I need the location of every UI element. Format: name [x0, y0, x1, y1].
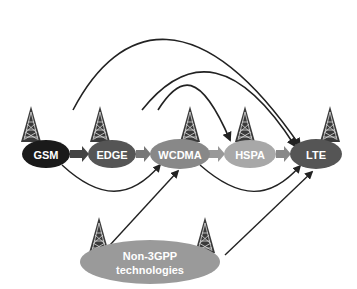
radio-tower-icon	[90, 106, 110, 142]
technology-evolution-diagram	[0, 0, 357, 289]
node-non3gpp	[80, 240, 220, 284]
radio-tower-icon	[21, 106, 41, 142]
label-gsm: GSM	[33, 149, 58, 161]
radio-tower-icon	[320, 106, 340, 142]
label-wcdma: WCDMA	[158, 149, 201, 161]
curve-wcdma-lte	[200, 165, 300, 191]
label-hspa: HSPA	[235, 149, 265, 161]
label-lte: LTE	[306, 149, 326, 161]
label-non3gpp-line1: Non-3GPP	[123, 250, 177, 262]
label-non3gpp-line2: technologies	[116, 264, 184, 276]
label-edge: EDGE	[96, 149, 127, 161]
line-non3gpp-lte	[225, 172, 312, 255]
line-non3gpp-wcdma	[110, 171, 178, 245]
radio-tower-icon	[180, 106, 200, 142]
radio-tower-icon	[235, 106, 255, 142]
curve-gsm-wcdma	[62, 165, 160, 191]
